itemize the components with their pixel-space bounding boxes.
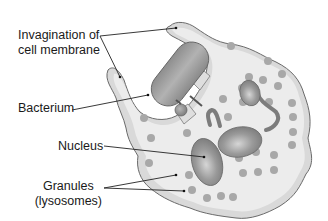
label-bacterium: Bacterium — [18, 101, 74, 116]
label-granules: Granules (lysosomes) — [35, 179, 102, 209]
label-granules-line1: Granules — [35, 179, 102, 194]
label-nucleus: Nucleus — [58, 139, 103, 154]
label-granules-line2: (lysosomes) — [35, 194, 102, 209]
label-invagination: Invagination of cell membrane — [18, 28, 100, 58]
label-invagination-line2: cell membrane — [18, 43, 100, 58]
label-invagination-line1: Invagination of — [18, 28, 100, 43]
phagocytosis-diagram: Invagination of cell membrane Bacterium … — [0, 0, 328, 221]
